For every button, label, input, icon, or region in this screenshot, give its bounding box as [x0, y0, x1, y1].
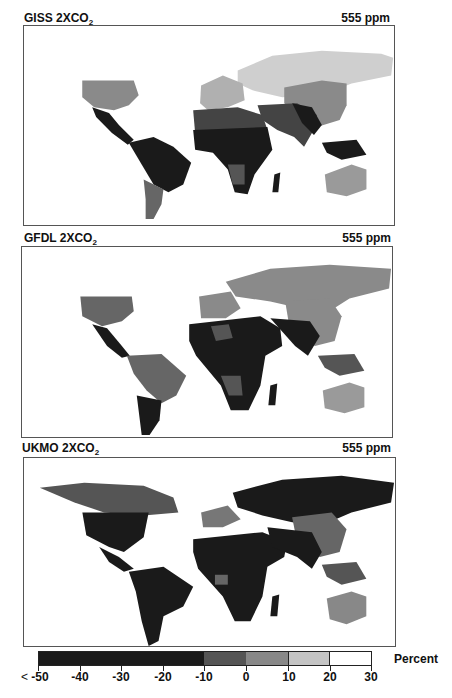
world-map-gfdl — [22, 247, 392, 437]
panel-title-text: GISS 2XCO — [24, 11, 89, 25]
map-panel-gfdl — [21, 246, 393, 438]
colorbar-unit-label: Percent — [394, 652, 438, 666]
subscript: 2 — [95, 448, 99, 457]
tick-label: 30 — [351, 670, 391, 684]
colorbar-bin-10-20 — [288, 652, 330, 665]
tick-label: -50 — [20, 670, 60, 684]
tick-label: -30 — [101, 670, 141, 684]
panel-ppm-ukmo: 555 ppm — [300, 441, 391, 455]
panel-title-text: UKMO 2XCO — [22, 441, 95, 455]
colorbar-bin-20-30 — [329, 652, 371, 665]
map-panel-giss — [23, 25, 395, 226]
tick-label: 0 — [226, 670, 266, 684]
panel-title-ukmo: UKMO 2XCO2 — [22, 441, 99, 455]
colorbar-bin-minus10-0 — [204, 652, 246, 665]
tick-label: -20 — [143, 670, 183, 684]
colorbar — [38, 651, 372, 666]
colorbar-bin-lt-minus10 — [39, 652, 204, 665]
tick-label: 10 — [269, 670, 309, 684]
map-panel-ukmo — [23, 457, 396, 647]
colorbar-bin-0-10 — [246, 652, 288, 665]
panel-ppm-gfdl: 555 ppm — [300, 231, 391, 245]
panel-title-gfdl: GFDL 2XCO2 — [24, 231, 97, 245]
tick-label: 20 — [310, 670, 350, 684]
panel-ppm-giss: 555 ppm — [300, 11, 390, 25]
world-map-giss — [24, 26, 394, 225]
tick-label: -10 — [184, 670, 224, 684]
tick-label: -40 — [60, 670, 100, 684]
panel-title-text: GFDL 2XCO — [24, 231, 92, 245]
panel-title-giss: GISS 2XCO2 — [24, 11, 93, 25]
world-map-ukmo — [24, 458, 395, 646]
